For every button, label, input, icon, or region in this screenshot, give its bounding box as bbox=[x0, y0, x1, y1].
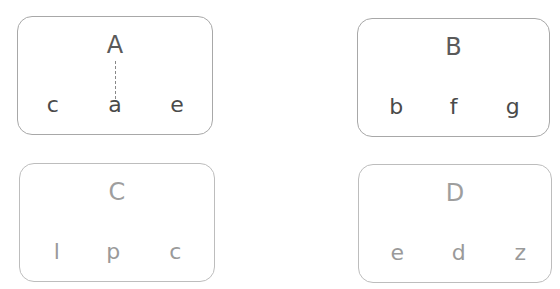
card-c-item: p bbox=[98, 237, 128, 267]
card-b-item: f bbox=[439, 92, 469, 122]
card-a: A c a e bbox=[17, 16, 213, 135]
card-d-label: D bbox=[359, 179, 551, 207]
card-b-item: b bbox=[381, 92, 411, 122]
card-d: D e d z bbox=[358, 164, 552, 283]
card-b-item: g bbox=[498, 92, 528, 122]
card-a-item: c bbox=[38, 90, 68, 120]
card-a-item: a bbox=[100, 90, 130, 120]
card-d-items: e d z bbox=[359, 238, 551, 268]
card-a-item: e bbox=[162, 90, 192, 120]
card-c: C l p c bbox=[19, 163, 215, 282]
card-d-item: z bbox=[505, 238, 535, 268]
card-b-label: B bbox=[358, 33, 549, 61]
card-a-items: c a e bbox=[18, 90, 212, 120]
card-b-items: b f g bbox=[358, 92, 549, 122]
card-c-item: l bbox=[42, 237, 72, 267]
card-c-items: l p c bbox=[20, 237, 214, 267]
card-a-label: A bbox=[18, 31, 212, 59]
card-d-item: d bbox=[444, 238, 474, 268]
card-b: B b f g bbox=[357, 18, 550, 137]
card-c-label: C bbox=[20, 178, 214, 206]
card-d-item: e bbox=[382, 238, 412, 268]
card-c-item: c bbox=[160, 237, 190, 267]
